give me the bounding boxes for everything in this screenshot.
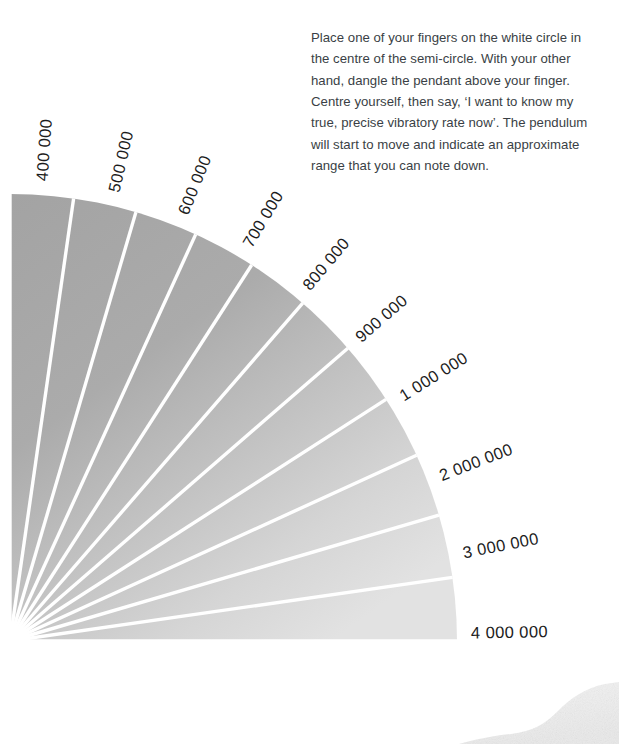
dial-disc [10,194,457,641]
dial-scale-label: 4 000 000 [471,622,548,642]
dial-divider-ray [10,348,348,641]
dial-scale-label: 800 000 [299,234,354,294]
dial-scale-label: 3 000 000 [461,529,540,562]
dial-scale-label: 500 000 [104,129,137,194]
dial-divider-ray [10,303,303,641]
dial-divider-ray [10,399,386,641]
dial-divider-ray [10,577,452,641]
dial-sectors [10,194,457,641]
page-canvas: 400 000500 000600 000700 000800 000900 0… [0,0,619,744]
dial-centre-dot [3,634,17,648]
dial-scale-label: 400 000 [33,118,56,182]
dial-scale-label: 700 000 [239,187,287,250]
dial-scale-label: 1 000 000 [396,348,471,405]
dial-divider-ray [10,265,252,641]
dial-divider-ray [10,212,136,641]
dial-centre-white-circle [0,607,44,675]
dial-divider-ray [10,199,74,641]
dial-scale-label: 900 000 [352,290,412,345]
dial-divider-ray [10,234,196,641]
textured-stone-edge [459,666,619,744]
dial-divider-ray [10,455,417,641]
dial-divider-rays [10,194,457,641]
instruction-paragraph: Place one of your fingers on the white c… [311,27,599,176]
dial-divider-ray [10,515,439,641]
dial-scale-label: 600 000 [174,152,215,217]
dial-scale-label: 2 000 000 [437,439,516,484]
